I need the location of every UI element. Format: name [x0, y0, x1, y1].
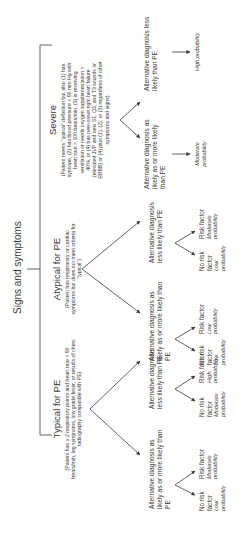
atypical-alt-less: Alternative diagnosis less likely than P…: [148, 193, 164, 263]
atypical-alt-likely: Alternative diagnosis as likely as or mo…: [148, 281, 172, 361]
atypical-likely-risk: Risk factor Low probability: [198, 304, 219, 334]
leaf-probability: Moderate probability: [213, 385, 226, 417]
severe-alt-less: Alternative diagnosis less likely than P…: [143, 11, 159, 91]
severe-alt-likely: Alternative diagnosis as likely as or mo…: [143, 111, 167, 189]
leaf-probability: Low probability: [213, 241, 226, 271]
atypical-likely-no-risk: No risk factor Low probability: [198, 337, 227, 365]
atypical-less-no-risk: No risk factor Low probability: [198, 241, 227, 271]
atypical-less-risk: Risk factor Moderate probability: [198, 207, 219, 239]
leaf-factor: No risk factor: [198, 397, 213, 417]
leaf-probability: Low probability: [206, 304, 219, 334]
flowchart: Signs and symptoms Typical for PE (Patie…: [0, 0, 240, 539]
branch-severe-title: Severe: [48, 90, 59, 150]
leaf-probability: Low probability: [213, 337, 226, 365]
branch-atypical-description: (Patient has respiratory or cardiac symp…: [64, 219, 83, 319]
leaf-factor: Risk factor: [198, 209, 205, 239]
typical-likely-no-risk: No risk factor Low probability: [198, 483, 227, 511]
typical-alt-likely: Alternative diagnosis as likely as or mo…: [148, 429, 172, 509]
branch-typical-title: Typical for PE: [52, 369, 63, 449]
severe-less-result: High probability: [194, 32, 201, 72]
chart-title: Signs and symptoms: [12, 221, 24, 314]
branch-severe-description: (Patient meets "typical" definition but …: [60, 61, 110, 179]
severe-likely-result: Moderate probability: [194, 134, 207, 174]
typical-less-no-risk: No risk factor Moderate probability: [198, 385, 227, 417]
leaf-factor: Risk factor: [198, 449, 205, 479]
leaf-factor: No risk factor: [198, 251, 213, 271]
leaf-factor: Risk factor: [198, 304, 205, 334]
leaf-factor: No risk factor: [198, 491, 213, 511]
typical-likely-risk: Risk factor Moderate probability: [198, 447, 219, 479]
leaf-probability: High probability: [194, 32, 201, 72]
leaf-probability: Moderate probability: [206, 447, 219, 479]
branch-typical-description: (Patient has ≥ 2 respiratory points and …: [64, 339, 83, 479]
leaf-probability: Moderate probability: [206, 207, 219, 239]
leaf-factor: No risk factor: [198, 345, 213, 365]
leaf-probability: Low probability: [213, 483, 226, 511]
branch-atypical-title: Atypical for PE: [52, 229, 63, 309]
leaf-probability: Moderate probability: [194, 134, 207, 174]
